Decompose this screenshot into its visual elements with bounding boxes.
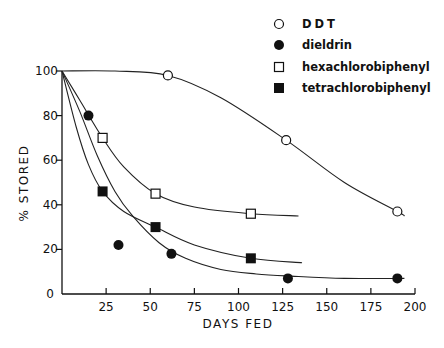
filled-square-legend-icon [274,83,284,93]
filled-circle-marker [392,273,402,283]
filled-circle-marker [166,249,176,259]
y-axis-title: % STORED [17,145,31,222]
y-tick-label: 60 [43,153,58,167]
legend-label: dieldrin [302,38,352,52]
open-square-marker [246,209,255,218]
y-tick-label: 20 [43,242,58,256]
open-circle-marker [393,207,402,216]
curve-tetrachlorobiphenyl [62,71,302,263]
y-tick-label: 80 [43,109,58,123]
x-tick-label: 25 [98,300,113,314]
filled-square-marker [246,253,256,263]
filled-square-marker [98,186,108,196]
filled-circle-marker [83,111,93,121]
filled-circle-marker [113,240,123,250]
open-square-marker [151,189,160,198]
filled-square-marker [151,222,161,232]
open-square-legend-icon [275,63,284,72]
open-circle-marker [282,136,291,145]
x-tick-label: 50 [143,300,158,314]
filled-circle-marker [283,273,293,283]
axes: 255075100125150175200020406080100 [35,64,426,314]
legend-label: tetrachlorobiphenyl [302,81,431,95]
x-tick-label: 175 [359,300,382,314]
line-chart: 255075100125150175200020406080100 DDTdie… [0,0,444,348]
x-tick-label: 100 [227,300,250,314]
x-tick-label: 150 [315,300,338,314]
open-square-marker [98,133,107,142]
open-circle-legend-icon [275,20,284,29]
curve-hexachlorobiphenyl [62,71,299,216]
y-tick-label: 100 [35,64,58,78]
x-tick-label: 125 [271,300,294,314]
filled-circle-legend-icon [274,40,284,50]
data-markers [83,71,402,283]
x-axis-title: DAYS FED [203,317,274,331]
fit-curves [62,71,404,279]
legend: DDTdieldrinhexachlorobiphenyltetrachloro… [274,17,431,95]
curve-dieldrin [62,71,404,279]
x-tick-label: 200 [404,300,427,314]
x-tick-label: 75 [187,300,202,314]
y-tick-label: 0 [46,287,54,301]
chart-root: 255075100125150175200020406080100 DDTdie… [0,0,444,348]
open-circle-marker [163,71,172,80]
legend-label: DDT [302,17,338,31]
legend-label: hexachlorobiphenyl [302,60,430,74]
y-tick-label: 40 [43,198,58,212]
